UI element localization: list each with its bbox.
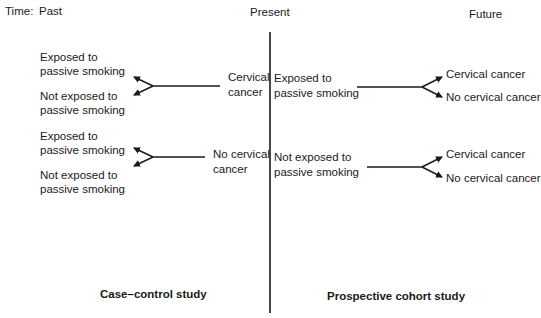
fork-arrow-cc-1 — [134, 77, 220, 95]
co-g2-exposure-l2: passive smoking — [274, 165, 359, 180]
fork-arrow-cohort-2 — [367, 157, 442, 177]
cc-g2-notexposed-l1: Not exposed to — [40, 168, 117, 183]
cc-g1-notexposed-l1: Not exposed to — [40, 89, 117, 104]
cc-g1-exposed-l1: Exposed to — [40, 50, 98, 65]
cc-g1-notexposed-l2: passive smoking — [40, 103, 125, 118]
cc-g2-exposed-l1: Exposed to — [40, 129, 98, 144]
co-g1-outcome-1: Cervical cancer — [446, 67, 525, 82]
fork-arrow-cohort-1 — [357, 77, 442, 97]
cc-g1-outcome-l2: cancer — [228, 85, 263, 100]
co-g2-outcome-2: No cervical cancer — [446, 171, 541, 186]
co-g1-exposure-l1: Exposed to — [274, 71, 332, 86]
cc-g2-notexposed-l2: passive smoking — [40, 182, 125, 197]
time-past: Past — [39, 4, 62, 19]
cohort-title: Prospective cohort study — [327, 289, 465, 304]
cc-g2-outcome-l2: cancer — [213, 162, 248, 177]
co-g1-exposure-l2: passive smoking — [274, 86, 359, 101]
time-label: Time: — [5, 4, 33, 19]
co-g1-outcome-2: No cervical cancer — [446, 90, 541, 105]
time-present: Present — [250, 5, 290, 20]
case-control-title: Case–control study — [100, 287, 207, 302]
co-g2-outcome-1: Cervical cancer — [446, 147, 525, 162]
cc-g2-outcome-l1: No cervical — [213, 147, 270, 162]
fork-arrow-cc-2 — [134, 148, 205, 166]
cc-g1-exposed-l2: passive smoking — [40, 64, 125, 79]
cc-g1-outcome-l1: Cervical — [228, 70, 270, 85]
co-g2-exposure-l1: Not exposed to — [274, 150, 351, 165]
time-future: Future — [469, 7, 502, 22]
cc-g2-exposed-l2: passive smoking — [40, 143, 125, 158]
